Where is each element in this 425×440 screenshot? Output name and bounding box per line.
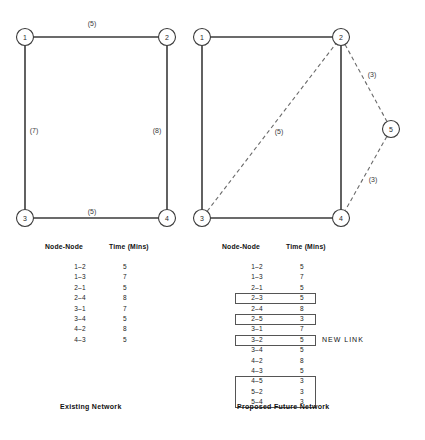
edge-label-1-2: (5) [88,20,97,28]
cell-node-pair: 2–5 [240,315,274,322]
node-label: 2 [165,34,169,41]
new-link-annotation: NEW LINK [322,336,364,343]
cell-time: 8 [119,325,131,332]
network-diagrams: (5)(7)(8)(5)1234(5)(3)(3)12345 [0,0,425,240]
node-right-1[interactable]: 1 [194,29,211,46]
node-left-1[interactable]: 1 [17,29,34,46]
edge-2-5 [345,44,387,121]
cell-time: 7 [119,273,131,280]
cell-time: 5 [296,367,308,374]
cell-node-pair: 3–1 [63,305,97,312]
cell-time: 8 [296,305,308,312]
cell-node-pair: 3–4 [240,346,274,353]
cell-time: 5 [296,263,308,270]
cell-node-pair: 2–4 [240,305,274,312]
cell-time: 7 [119,305,131,312]
node-label: 3 [23,215,27,222]
cell-node-pair: 4–3 [240,367,274,374]
column-header-time: Time (Mins) [109,243,149,250]
cell-node-pair: 1–2 [63,263,97,270]
edge-label-3-4: (5) [88,208,97,216]
edge-label-2-4: (8) [153,127,162,135]
cell-node-pair: 1–3 [63,273,97,280]
column-header-node-node: Node-Node [45,243,83,250]
cell-time: 3 [296,388,308,395]
node-right-2[interactable]: 2 [333,29,350,46]
node-left-3[interactable]: 3 [17,210,34,227]
cell-node-pair: 2–3 [240,294,274,301]
cell-node-pair: 3–2 [240,336,274,343]
cell-time: 5 [296,284,308,291]
cell-node-pair: 4–3 [63,336,97,343]
cell-time: 8 [296,357,308,364]
cell-node-pair: 2–4 [63,294,97,301]
cell-node-pair: 4–2 [63,325,97,332]
node-label: 5 [389,126,393,133]
cell-time: 7 [296,273,308,280]
cell-time: 5 [119,336,131,343]
cell-time: 3 [296,315,308,322]
cell-time: 7 [296,325,308,332]
cell-node-pair: 4–2 [240,357,274,364]
node-label: 4 [339,215,343,222]
column-header-time: Time (Mins) [286,243,326,250]
edge-5-4 [345,136,387,210]
node-label: 1 [200,34,204,41]
cell-node-pair: 4–5 [240,377,274,384]
edge-label-3-2: (5) [275,128,284,136]
cell-time: 5 [119,284,131,291]
edge-label-5-4: (3) [369,176,378,184]
node-label: 3 [200,215,204,222]
caption-existing-network: Existing Network [60,403,122,410]
cell-time: 5 [296,346,308,353]
node-left-2[interactable]: 2 [159,29,176,46]
node-label: 1 [23,34,27,41]
caption-proposed-future-network: Proposed Future Network [237,403,329,410]
node-right-5[interactable]: 5 [383,121,400,138]
node-left-4[interactable]: 4 [159,210,176,227]
edge-label-2-5: (3) [368,71,377,79]
cell-time: 5 [119,315,131,322]
cell-node-pair: 2–1 [63,284,97,291]
cell-time: 8 [119,294,131,301]
cell-time: 5 [119,263,131,270]
cell-time: 3 [296,377,308,384]
column-header-node-node: Node-Node [222,243,260,250]
edge-3-2 [207,44,336,212]
cell-node-pair: 3–4 [63,315,97,322]
node-right-3[interactable]: 3 [194,210,211,227]
node-right-4[interactable]: 4 [333,210,350,227]
cell-node-pair: 5–2 [240,388,274,395]
node-label: 4 [165,215,169,222]
cell-node-pair: 1–2 [240,263,274,270]
figure-canvas: (5)(7)(8)(5)1234(5)(3)(3)12345 Node-Node… [0,0,425,440]
cell-time: 5 [296,294,308,301]
edge-label-1-3: (7) [30,127,39,135]
cell-node-pair: 1–3 [240,273,274,280]
cell-time: 5 [296,336,308,343]
node-label: 2 [339,34,343,41]
cell-node-pair: 3–1 [240,325,274,332]
cell-node-pair: 2–1 [240,284,274,291]
